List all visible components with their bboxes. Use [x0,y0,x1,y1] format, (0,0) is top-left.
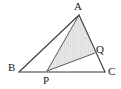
vertex-label-p: P [43,75,49,86]
vertex-label-q: Q [96,44,104,55]
shaded-triangle-apq [47,15,95,71]
geometry-figure: A B C P Q [0,0,121,89]
vertex-label-a: A [74,1,82,12]
vertex-label-b: B [8,62,15,73]
vertex-label-c: C [108,66,115,77]
